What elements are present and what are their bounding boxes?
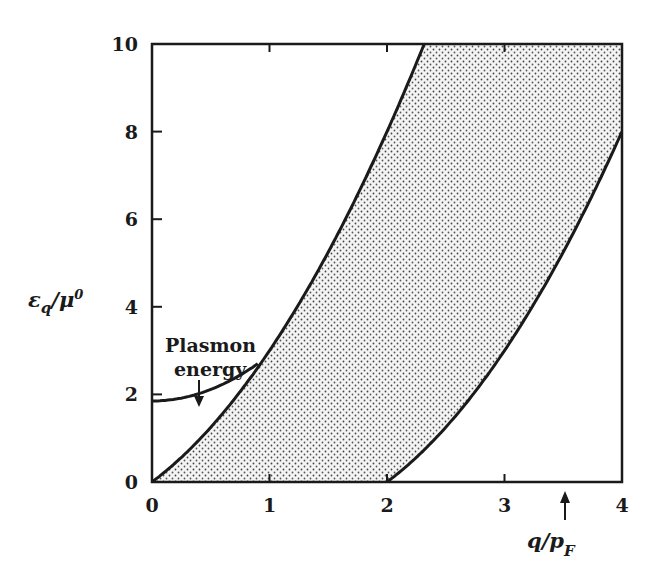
y-tick-label: 2: [125, 383, 138, 405]
y-tick-label: 0: [125, 471, 138, 493]
x-tick-label: 1: [263, 494, 276, 516]
plot-canvas: 012340246810 Plasmon energy εq/μ0 q/pF: [0, 0, 652, 580]
y-tick-label: 6: [125, 208, 138, 230]
x-tick-label: 0: [145, 494, 158, 516]
x-tick-label: 3: [498, 494, 511, 516]
plasmon-label-line1: Plasmon: [165, 334, 256, 356]
y-axis-label: εq/μ0: [28, 287, 83, 317]
plasmon-label-line2: energy: [174, 358, 247, 380]
x-tick-label: 4: [615, 494, 628, 516]
y-tick-label: 10: [112, 33, 138, 55]
fermi-arrow-icon: [560, 491, 570, 520]
y-tick-label: 8: [125, 121, 138, 143]
y-tick-label: 4: [125, 296, 138, 318]
x-axis-label: q/pF: [527, 528, 576, 560]
x-tick-label: 2: [380, 494, 393, 516]
